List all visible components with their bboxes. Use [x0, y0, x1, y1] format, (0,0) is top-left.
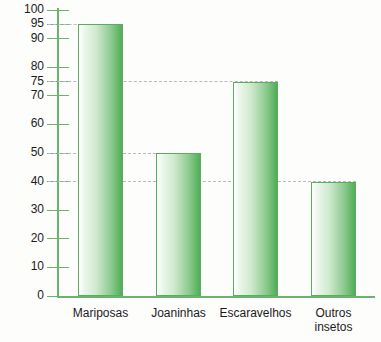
x-axis-line	[57, 296, 375, 298]
y-tick-label: 95	[0, 17, 44, 29]
y-tick-label: 75	[0, 75, 44, 87]
category-label-line: insetos	[289, 320, 379, 334]
y-tick-mark	[47, 210, 69, 211]
y-tick-mark	[47, 296, 69, 297]
y-tick-label: 20	[0, 232, 44, 244]
category-label-line: Mariposas	[56, 306, 146, 320]
category-label-escaravelhos: Escaravelhos	[211, 306, 301, 320]
y-tick-label: 80	[0, 60, 44, 72]
category-label-line: Escaravelhos	[211, 306, 301, 320]
y-tick-mark	[47, 95, 69, 96]
bar-escaravelhos	[233, 82, 278, 297]
y-tick-mark	[47, 267, 69, 268]
bar-chart: 01020304050607075809095100 MariposasJoan…	[0, 0, 381, 342]
y-tick-mark	[47, 124, 69, 125]
y-tick-label: 100	[0, 3, 44, 15]
y-tick-label: 60	[0, 117, 44, 129]
y-tick-mark	[47, 67, 69, 68]
y-tick-label: 30	[0, 203, 44, 215]
y-tick-label: 70	[0, 89, 44, 101]
y-tick-label: 0	[0, 289, 44, 301]
y-tick-mark	[47, 10, 69, 11]
category-label-outros-insetos: Outrosinsetos	[289, 306, 379, 334]
y-tick-label: 40	[0, 175, 44, 187]
bar-outros-insetos	[311, 182, 356, 296]
category-label-line: Outros	[289, 306, 379, 320]
y-tick-label: 10	[0, 260, 44, 272]
y-tick-mark	[47, 38, 69, 39]
y-tick-label: 90	[0, 32, 44, 44]
category-label-mariposas: Mariposas	[56, 306, 146, 320]
bar-mariposas	[78, 24, 123, 296]
bar-joaninhas	[156, 153, 201, 296]
y-tick-label: 50	[0, 146, 44, 158]
y-tick-mark	[47, 238, 69, 239]
